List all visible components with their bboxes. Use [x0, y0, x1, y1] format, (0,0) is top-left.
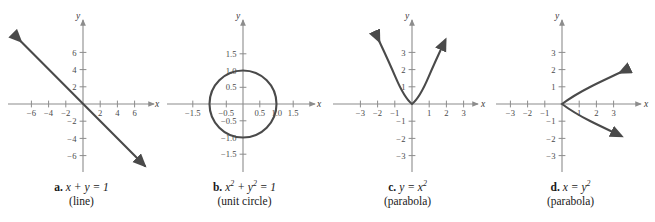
caption-b-line1: b.x2 + y2 = 1: [163, 180, 326, 194]
svg-text:−1: −1: [396, 116, 405, 126]
caption-a-line1: a.x + y = 1: [0, 180, 163, 194]
x-tick-labels-d: −3 −2 −1 1 2 3: [506, 108, 616, 118]
svg-text:1: 1: [551, 82, 555, 92]
caption-a-equation: x + y = 1: [66, 181, 109, 193]
x-axis-label-b: x: [316, 99, 322, 109]
svg-text:2: 2: [72, 82, 76, 92]
caption-d-equation: x = y2: [563, 181, 591, 193]
svg-text:2: 2: [444, 108, 448, 118]
panel-d: −3 −2 −1 1 2 3 3 2 1 −1 −2 −3 x y: [489, 0, 652, 222]
svg-text:−1: −1: [546, 116, 555, 126]
caption-b-letter: b.: [213, 181, 222, 193]
caption-d: d.x = y2 (parabola): [489, 180, 652, 209]
x-axis-label-a: x: [154, 99, 160, 109]
axes-a: [8, 20, 154, 172]
svg-text:1.5: 1.5: [226, 49, 237, 59]
svg-text:−2: −2: [523, 108, 532, 118]
svg-text:3: 3: [461, 108, 465, 118]
graph-a-svg: −6 −4 −2 2 4 6 6 4 2 −2 −4 −6 x: [0, 6, 163, 176]
plot-area-d: −3 −2 −1 1 2 3 3 2 1 −1 −2 −3 x y: [489, 6, 652, 176]
y-axis-label-c: y: [404, 11, 410, 21]
panel-b: −1.5 −0.5 0.5 1.0 1.5 1.5 1.0 0.5 −0.5 −…: [163, 0, 326, 222]
figure-four-graphs: −6 −4 −2 2 4 6 6 4 2 −2 −4 −6 x: [0, 0, 655, 222]
axes-b: [167, 20, 315, 172]
y-axis-label-d: y: [554, 11, 560, 21]
svg-text:2: 2: [551, 65, 555, 75]
svg-text:−3: −3: [356, 108, 365, 118]
svg-text:−6: −6: [27, 108, 37, 118]
svg-text:6: 6: [72, 48, 77, 58]
plot-area-b: −1.5 −0.5 0.5 1.0 1.5 1.5 1.0 0.5 −0.5 −…: [163, 6, 326, 176]
graph-d-svg: −3 −2 −1 1 2 3 3 2 1 −1 −2 −3 x y: [489, 6, 655, 176]
graph-b-svg: −1.5 −0.5 0.5 1.0 1.5 1.5 1.0 0.5 −0.5 −…: [163, 6, 326, 176]
svg-text:2: 2: [594, 108, 598, 118]
caption-c-equation: y = x2: [399, 181, 427, 193]
svg-text:3: 3: [611, 108, 615, 118]
svg-text:2: 2: [98, 108, 102, 118]
plot-area-c: −3 −2 −1 1 2 3 3 2 1 −1 −2 −3 x y: [326, 6, 489, 176]
svg-text:4: 4: [115, 108, 120, 118]
axes-d: [496, 20, 641, 172]
x-axis-label-d: x: [643, 99, 649, 109]
caption-b: b.x2 + y2 = 1 (unit circle): [163, 180, 326, 209]
svg-text:−1.5: −1.5: [185, 108, 201, 118]
caption-c: c.y = x2 (parabola): [326, 180, 489, 209]
caption-c-line1: c.y = x2: [326, 180, 489, 194]
caption-c-line2: (parabola): [326, 194, 489, 208]
caption-d-letter: d.: [551, 181, 560, 193]
caption-d-line2: (parabola): [489, 194, 652, 208]
svg-text:3: 3: [551, 48, 555, 58]
x-tick-labels-c: −3 −2 −1 1 2 3: [356, 108, 466, 118]
svg-text:0.5: 0.5: [254, 108, 265, 118]
graph-c-svg: −3 −2 −1 1 2 3 3 2 1 −1 −2 −3 x y: [326, 6, 489, 176]
svg-text:−0.5: −0.5: [221, 116, 237, 126]
plot-area-a: −6 −4 −2 2 4 6 6 4 2 −2 −4 −6 x: [0, 6, 163, 176]
svg-text:2: 2: [401, 65, 405, 75]
svg-text:−2: −2: [396, 134, 405, 144]
caption-a-letter: a.: [54, 181, 63, 193]
panel-a: −6 −4 −2 2 4 6 6 4 2 −2 −4 −6 x: [0, 0, 163, 222]
x-tick-labels-b: −1.5 −0.5 0.5 1.0 1.5: [185, 108, 299, 118]
panel-c: −3 −2 −1 1 2 3 3 2 1 −1 −2 −3 x y: [326, 0, 489, 222]
svg-text:0.5: 0.5: [226, 82, 237, 92]
svg-text:−1.5: −1.5: [221, 149, 237, 159]
svg-text:−2: −2: [546, 134, 555, 144]
svg-text:3: 3: [401, 48, 405, 58]
svg-text:−3: −3: [506, 108, 515, 118]
caption-a-line2: (line): [0, 194, 163, 208]
svg-text:−3: −3: [546, 151, 555, 161]
svg-text:1: 1: [427, 108, 431, 118]
svg-text:−3: −3: [396, 151, 405, 161]
x-tick-labels-a: −6 −4 −2 2 4 6: [27, 108, 138, 118]
svg-text:−2: −2: [373, 108, 382, 118]
caption-a: a.x + y = 1 (line): [0, 180, 163, 209]
svg-text:4: 4: [72, 65, 77, 75]
svg-text:6: 6: [132, 108, 137, 118]
x-axis-label-c: x: [480, 99, 486, 109]
caption-c-letter: c.: [388, 181, 396, 193]
svg-text:1.5: 1.5: [288, 108, 299, 118]
caption-b-equation: x2 + y2 = 1: [225, 181, 276, 193]
svg-text:−2: −2: [67, 116, 76, 126]
caption-d-line1: d.x = y2: [489, 180, 652, 194]
y-axis-label-b: y: [235, 11, 241, 21]
y-axis-label-a: y: [75, 11, 81, 21]
svg-text:−6: −6: [67, 151, 77, 161]
svg-text:−4: −4: [44, 108, 54, 118]
svg-text:−4: −4: [67, 134, 77, 144]
caption-b-line2: (unit circle): [163, 194, 326, 208]
